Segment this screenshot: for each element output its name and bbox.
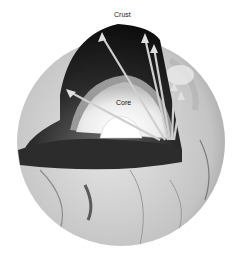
crust-label: Crust [114, 11, 131, 18]
earth-interior-graphic [0, 0, 243, 260]
earth-cutaway-illustration [0, 0, 243, 260]
core-label: Core [116, 99, 131, 106]
